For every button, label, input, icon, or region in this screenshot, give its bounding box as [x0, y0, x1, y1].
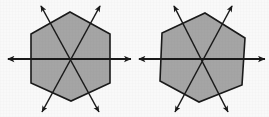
left-hexagon-group [8, 6, 131, 112]
left-hexagon-shape [31, 12, 110, 101]
figure-container: Lines of symmetry of a regular hexagon [0, 0, 269, 117]
right-hexagon-group [139, 6, 265, 112]
hexagon-symmetry-figure [0, 0, 269, 117]
right-hexagon-shape [160, 13, 245, 102]
